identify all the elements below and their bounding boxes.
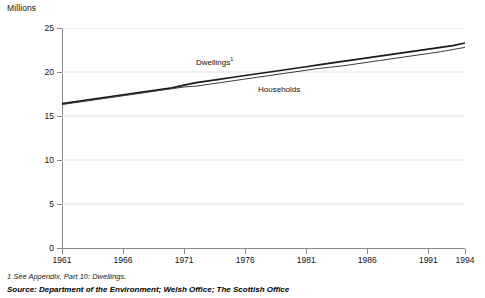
- series-label-text: Dwellings: [196, 58, 230, 67]
- plot-area: [62, 28, 465, 248]
- y-axis-tick-label: 0: [49, 244, 54, 253]
- x-axis-tick: [367, 249, 368, 254]
- series-label-households: Households: [258, 86, 300, 94]
- y-axis-tick-label: 5: [49, 200, 54, 209]
- y-axis-tick-label: 15: [45, 112, 54, 121]
- x-axis-tick-label: 1966: [114, 256, 133, 265]
- series-label-text: Households: [258, 85, 300, 94]
- footnote-marker: 1: [230, 56, 233, 62]
- footnote-text: 1 See Appendix, Part 10: Dwellings.: [7, 272, 126, 281]
- x-axis-tick-label: 1961: [53, 256, 72, 265]
- y-axis-tick-label: 10: [45, 156, 54, 165]
- y-axis-tick-label: 20: [45, 68, 54, 77]
- y-axis-tick-label: 25: [45, 24, 54, 33]
- x-axis-tick: [184, 249, 185, 254]
- x-axis-tick: [428, 249, 429, 254]
- x-axis-tick: [465, 249, 466, 254]
- x-axis-tick-label: 1991: [419, 256, 438, 265]
- source-text: Source: Department of the Environment; W…: [7, 285, 289, 294]
- x-axis-tick: [306, 249, 307, 254]
- x-axis-tick: [123, 249, 124, 254]
- y-axis-title: Millions: [7, 3, 36, 13]
- series-label-dwellings: Dwellings1: [196, 57, 233, 67]
- series-line-dwellings: [62, 43, 465, 104]
- line-chart-canvas: [62, 28, 465, 248]
- x-axis-tick-label: 1971: [175, 256, 194, 265]
- x-axis-tick: [245, 249, 246, 254]
- x-axis-tick-label: 1976: [236, 256, 255, 265]
- x-axis-tick-label: 1981: [297, 256, 316, 265]
- x-axis-tick-label: 1994: [456, 256, 475, 265]
- x-axis-tick-label: 1986: [358, 256, 377, 265]
- chart-figure: Millions 0510152025 19611966197119761981…: [0, 0, 485, 298]
- x-axis-tick: [62, 249, 63, 254]
- series-line-households: [62, 47, 465, 104]
